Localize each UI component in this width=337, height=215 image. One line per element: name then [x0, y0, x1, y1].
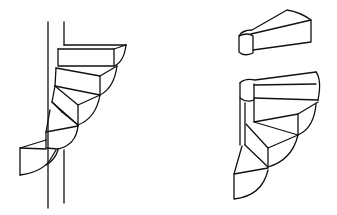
- assembled-spiral-stair: [234, 72, 320, 199]
- left-stair-with-pole: [20, 22, 126, 208]
- spiral-stairs-drawing: [0, 0, 337, 215]
- single-step-element: [239, 10, 311, 55]
